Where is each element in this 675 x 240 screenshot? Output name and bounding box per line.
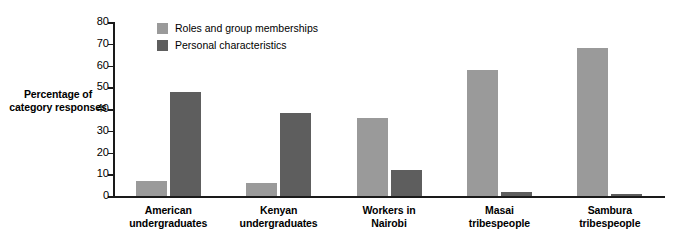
x-axis-label-line: Masai xyxy=(444,204,554,217)
y-axis-tick-label: 10 xyxy=(97,167,109,180)
y-axis-tick-label: 0 xyxy=(103,189,109,202)
bar-personal-3 xyxy=(501,192,532,196)
legend-item-roles-and-group-memberships: Roles and group memberships xyxy=(157,21,318,36)
bar-personal-2 xyxy=(391,170,422,196)
x-axis-label-line: Sambura xyxy=(555,204,665,217)
y-axis-line xyxy=(113,22,115,196)
y-axis-tick-label: 60 xyxy=(97,59,109,72)
x-axis-label-line: Workers in xyxy=(334,204,444,217)
y-axis-tick-label: 20 xyxy=(97,146,109,159)
y-axis-tick-label: 70 xyxy=(97,37,109,50)
x-axis-label-line: tribespeople xyxy=(555,217,665,230)
y-axis-tick-label: 80 xyxy=(97,15,109,28)
legend-item-personal-characteristics: Personal characteristics xyxy=(157,38,318,53)
bar-personal-4 xyxy=(611,194,642,196)
x-axis-label-4: Samburatribespeople xyxy=(555,204,665,230)
y-axis-title: Percentage of category responses xyxy=(8,88,108,114)
legend-label-dark: Personal characteristics xyxy=(175,39,286,52)
x-axis-label-2: Workers inNairobi xyxy=(334,204,444,230)
bar-roles-0 xyxy=(136,181,167,196)
y-axis-tick-label: 50 xyxy=(97,80,109,93)
bar-personal-1 xyxy=(280,113,311,196)
bar-roles-1 xyxy=(246,183,277,196)
bar-chart: Percentage of category responses 0102030… xyxy=(0,0,675,240)
x-axis-label-3: Masaitribespeople xyxy=(444,204,554,230)
legend-swatch-dark xyxy=(157,40,168,51)
bar-roles-2 xyxy=(357,118,388,196)
x-axis-label-line: undergraduates xyxy=(223,217,333,230)
x-axis-label-line: undergraduates xyxy=(113,217,223,230)
x-axis-label-line: Nairobi xyxy=(334,217,444,230)
x-axis-label-0: Americanundergraduates xyxy=(113,204,223,230)
bar-personal-0 xyxy=(170,92,201,196)
y-axis-title-line-2: category responses xyxy=(9,101,106,113)
chart-legend: Roles and group memberships Personal cha… xyxy=(157,21,318,55)
x-axis-label-line: American xyxy=(113,204,223,217)
x-axis-label-line: Kenyan xyxy=(223,204,333,217)
bar-roles-4 xyxy=(577,48,608,196)
legend-swatch-light xyxy=(157,23,168,34)
y-axis-title-line-1: Percentage of xyxy=(24,88,92,100)
y-axis-tick-label: 30 xyxy=(97,124,109,137)
x-axis-label-1: Kenyanundergraduates xyxy=(223,204,333,230)
bar-roles-3 xyxy=(467,70,498,196)
x-axis-line xyxy=(113,196,665,198)
x-axis-label-line: tribespeople xyxy=(444,217,554,230)
legend-label-light: Roles and group memberships xyxy=(175,22,318,35)
y-axis-tick-label: 40 xyxy=(97,102,109,115)
